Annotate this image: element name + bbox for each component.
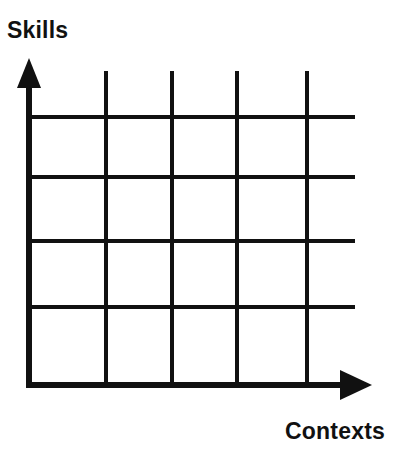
arrow-up-icon (17, 58, 41, 88)
y-axis (17, 58, 41, 388)
y-axis-label: Skills (7, 19, 68, 42)
skills-contexts-grid-diagram: Skills Contexts (0, 0, 406, 450)
arrow-right-icon (340, 370, 372, 400)
x-axis-label: Contexts (285, 420, 385, 443)
x-axis (26, 370, 372, 400)
diagram-canvas (0, 0, 406, 450)
